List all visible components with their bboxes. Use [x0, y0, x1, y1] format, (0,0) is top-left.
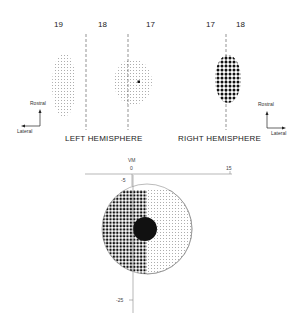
- visual-field-plot: [85, 171, 232, 313]
- diagram-canvas: [0, 0, 298, 321]
- central-spot: [133, 217, 157, 241]
- x-tick-15: 15: [226, 165, 232, 171]
- rostral-label-left: Rostral: [30, 100, 46, 106]
- rostral-label-right: Rostral: [258, 101, 274, 107]
- y-tick-minus25: -25: [116, 297, 123, 303]
- arrow-up-icon: [266, 111, 269, 115]
- orientation-arrows-right: [266, 111, 287, 130]
- orientation-arrows-left: [21, 109, 42, 128]
- receptive-region-area18-17: [114, 59, 152, 105]
- area-label-18: 18: [98, 20, 107, 29]
- area-label-17: 17: [146, 20, 155, 29]
- vm-label: VM: [128, 157, 136, 163]
- lateral-label-left: Lateral: [17, 128, 32, 134]
- center-marker: [138, 81, 141, 84]
- x-tick-0: 0: [130, 165, 133, 171]
- area-label-17-right: 17: [206, 20, 215, 29]
- y-tick-minus5: -5: [121, 177, 125, 183]
- receptive-region-area19: [52, 53, 76, 117]
- right-hemisphere-label: RIGHT HEMISPHERE: [178, 134, 261, 143]
- right-hemisphere-map: [215, 34, 286, 130]
- left-hemisphere-map: [21, 34, 152, 130]
- area-label-19: 19: [54, 20, 63, 29]
- area-label-18-right: 18: [236, 20, 245, 29]
- left-hemisphere-label: LEFT HEMISPHERE: [65, 134, 143, 143]
- receptive-region-area17-18: [215, 55, 241, 103]
- arrow-up-icon: [39, 109, 42, 113]
- lateral-label-right: Lateral: [271, 130, 286, 136]
